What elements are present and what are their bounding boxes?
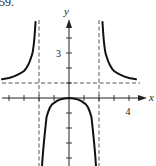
problem-number: 59.: [0, 0, 14, 9]
y-axis: y 3: [56, 5, 72, 166]
y-axis-arrow-icon: [66, 19, 72, 28]
x-axis-label: x: [148, 91, 154, 103]
x-axis: x 4: [2, 91, 154, 117]
right-upper-branch: [103, 22, 137, 79]
y-axis-label: y: [63, 5, 69, 17]
y-tick-label: 3: [56, 48, 61, 59]
x-tick-label: 4: [126, 106, 131, 117]
x-axis-arrow-icon: [138, 95, 147, 101]
left-upper-branch: [2, 22, 36, 79]
asymptotes: [2, 20, 140, 166]
graph: 59. x 4: [0, 0, 156, 166]
